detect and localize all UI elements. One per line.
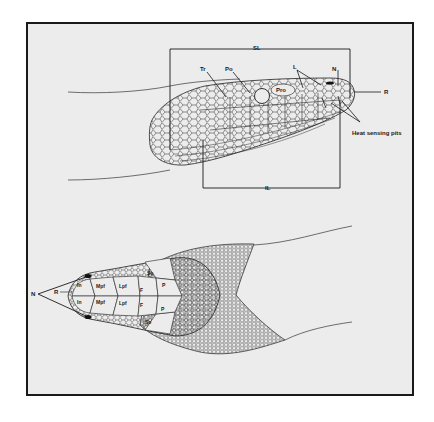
snake-head-illustration (0, 0, 434, 422)
supraocular-top-label: So (147, 271, 153, 276)
internasal-right-label: In (77, 300, 81, 305)
preocular-label: Pro (276, 87, 286, 93)
nostril-label: N (332, 66, 336, 72)
il-label: IL (265, 185, 270, 191)
sl-label: SL (253, 45, 261, 51)
median-prefrontal-left-label: Mpf (96, 284, 105, 289)
supraocular-bottom-label: So (145, 320, 151, 325)
postocular-label: Po (225, 66, 233, 72)
rostral-label: R (384, 89, 388, 95)
lateral-prefrontal-right-label: Lpf (119, 301, 127, 306)
lateral-head (149, 78, 354, 165)
dorsal-nostril-label: N (31, 291, 35, 297)
frontal-left-label: F (140, 288, 143, 293)
lateral-prefrontal-left-label: Lpf (119, 284, 127, 289)
parietal-bottom-label: P (161, 307, 164, 312)
median-prefrontal-right-label: Mpf (96, 300, 105, 305)
internasal-left-label: In (77, 283, 81, 288)
labials-label: L (293, 64, 297, 70)
temporal-label: Tr (200, 66, 206, 72)
eye (255, 89, 270, 104)
frontal-right-label: F (140, 303, 143, 308)
heat-pits-label: Heat sensing pits (352, 130, 402, 136)
dorsal-rostral-label: R (54, 289, 58, 295)
dorsal-view (38, 226, 352, 354)
nostril (326, 81, 334, 84)
parietal-top-label: P (162, 283, 165, 288)
